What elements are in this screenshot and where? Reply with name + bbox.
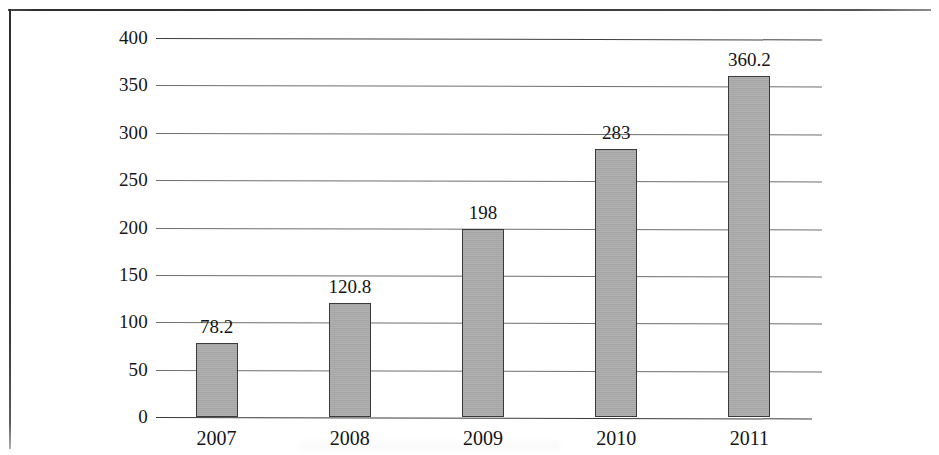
x-axis-tick-label: 2009 xyxy=(463,428,503,448)
y-axis-tick-label: 300 xyxy=(96,123,148,142)
x-axis-tick-label: 2008 xyxy=(330,428,370,448)
bar-value-label: 120.8 xyxy=(328,277,371,296)
gridline xyxy=(156,180,822,183)
y-axis-tick-label: 350 xyxy=(96,75,148,94)
bar-value-label: 198 xyxy=(469,203,498,222)
gridline xyxy=(156,38,822,41)
y-axis-tick-label: 250 xyxy=(96,170,148,189)
chart-page: 05010015020025030035040078.22007120.8200… xyxy=(0,0,939,455)
gridline xyxy=(156,133,822,136)
bar xyxy=(728,76,770,417)
bar-value-label: 283 xyxy=(602,123,631,142)
x-axis-tick-label: 2007 xyxy=(197,428,237,448)
x-axis-line xyxy=(156,417,812,419)
y-axis-tick-label: 0 xyxy=(96,407,148,426)
y-axis-tick-label: 150 xyxy=(96,265,148,284)
bar-chart-plot-area: 05010015020025030035040078.22007120.8200… xyxy=(0,0,939,455)
y-axis-tick-label: 50 xyxy=(96,360,148,379)
bar xyxy=(462,229,504,417)
bar xyxy=(595,149,637,417)
x-axis-tick-label: 2010 xyxy=(596,428,636,448)
bar-value-label: 78.2 xyxy=(200,317,233,336)
bar xyxy=(329,303,371,417)
gridline xyxy=(156,85,822,88)
y-axis-tick-label: 200 xyxy=(96,218,148,237)
x-axis-tick-label: 2011 xyxy=(730,428,769,448)
y-axis-tick-label: 400 xyxy=(96,28,148,47)
bar xyxy=(196,343,238,417)
y-axis-tick-label: 100 xyxy=(96,312,148,331)
bar-value-label: 360.2 xyxy=(728,50,771,69)
